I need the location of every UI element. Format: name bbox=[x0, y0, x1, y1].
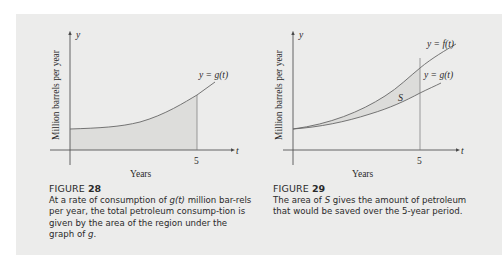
figure-28-label: FIGURE 28 bbox=[49, 183, 254, 194]
caption-math: g(t) bbox=[169, 195, 185, 205]
figure-number: 28 bbox=[88, 183, 101, 194]
curve-f bbox=[293, 44, 456, 129]
t-axis-symbol: t bbox=[236, 146, 239, 156]
caption-text: The area of bbox=[273, 195, 325, 205]
shaded-area-under-g bbox=[70, 95, 197, 150]
tick-5: 5 bbox=[194, 156, 199, 166]
figure-28-caption-text: At a rate of consumption of g(t) million… bbox=[49, 195, 254, 240]
y-axis-label: Million barrels per year bbox=[51, 49, 61, 140]
y-axis-symbol: y bbox=[298, 30, 304, 40]
t-axis-symbol: t bbox=[461, 146, 464, 156]
figure-word: FIGURE bbox=[49, 183, 88, 194]
curve-g-label: y = g(t) bbox=[198, 70, 228, 81]
figure-word: FIGURE bbox=[273, 183, 312, 194]
figure-29-caption: FIGURE 29 The area of S gives the amount… bbox=[273, 183, 478, 218]
x-axis-label: Years bbox=[352, 169, 374, 179]
figure-29-label: FIGURE 29 bbox=[273, 183, 478, 194]
caption-text: At a rate of consumption of bbox=[49, 195, 169, 205]
curve-g-label: y = g(t) bbox=[423, 70, 453, 81]
y-axis-symbol: y bbox=[75, 30, 81, 40]
figure-28-chart: y t 5 Years Million barrels per year y =… bbox=[50, 30, 239, 179]
figure-29-chart: y t 5 Years Million barrels per year y =… bbox=[274, 30, 464, 179]
y-axis-label: Million barrels per year bbox=[274, 49, 284, 140]
figure-28-caption: FIGURE 28 At a rate of consumption of g(… bbox=[49, 183, 254, 240]
region-S-label: S bbox=[398, 92, 403, 103]
tick-5: 5 bbox=[417, 156, 422, 166]
curve-f-label: y = f(t) bbox=[426, 39, 454, 50]
x-axis-label: Years bbox=[130, 169, 152, 179]
figure-number: 29 bbox=[312, 183, 325, 194]
figure-29-caption-text: The area of S gives the amount of petrol… bbox=[273, 195, 478, 217]
caption-text: . bbox=[93, 229, 96, 239]
